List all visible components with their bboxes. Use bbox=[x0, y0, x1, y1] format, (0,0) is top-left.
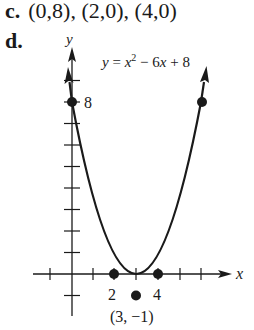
point-4-0 bbox=[153, 269, 163, 279]
curve-right-arrowhead-icon bbox=[200, 66, 209, 83]
x-tick-label-2: 2 bbox=[108, 286, 116, 303]
parabola-curve bbox=[72, 102, 201, 274]
point-2-0 bbox=[109, 269, 119, 279]
y-tick-label-8: 8 bbox=[84, 94, 92, 111]
y-axis-label: y bbox=[64, 31, 73, 47]
point-6-8 bbox=[197, 97, 207, 107]
equation-label: y = x2 − 6x + 8 bbox=[100, 52, 190, 70]
point-3-neg1 bbox=[131, 291, 141, 301]
point-0-8 bbox=[67, 97, 77, 107]
data-points bbox=[67, 97, 207, 301]
parabola-graph: y x y = x2 − 6x + 8 8 2 4 (3, −1) bbox=[0, 0, 254, 330]
x-tick-label-4: 4 bbox=[153, 286, 161, 303]
vertex-label: (3, −1) bbox=[110, 308, 154, 326]
x-axis-label: x bbox=[235, 265, 243, 282]
